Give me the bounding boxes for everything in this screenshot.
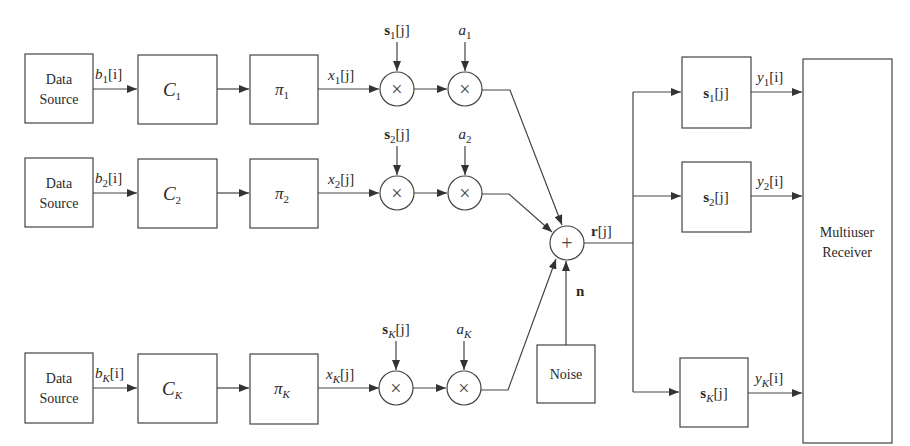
data-source-label-2b: Source bbox=[40, 196, 79, 211]
label-y2: y2[i] bbox=[755, 173, 783, 192]
label-xK: xK[j] bbox=[325, 366, 354, 385]
data-source-box-2 bbox=[25, 158, 93, 227]
label-b2: b2[i] bbox=[95, 170, 122, 189]
multiply-icon-2b: × bbox=[459, 182, 470, 204]
data-source-label-1a: Data bbox=[46, 72, 73, 87]
multiuser-receiver: Multiuser Receiver bbox=[803, 59, 892, 443]
label-yK: yK[i] bbox=[753, 370, 783, 389]
channel: + Noise n r[j] bbox=[537, 92, 681, 403]
multiply-icon-1b: × bbox=[459, 78, 470, 100]
label-x1: x1[j] bbox=[327, 67, 354, 86]
label-noise-n: n bbox=[576, 283, 585, 299]
multiply-icon-1a: × bbox=[391, 78, 402, 100]
label-aK: aK bbox=[457, 321, 473, 340]
user-row-2: Data Source b2[i] C2 π2 x2[j] × s2[j] × … bbox=[25, 126, 552, 232]
plus-icon: + bbox=[561, 232, 572, 254]
label-b1: b1[i] bbox=[95, 66, 122, 85]
multiply-icon-Ka: × bbox=[390, 377, 401, 399]
receiver-label-line2: Receiver bbox=[822, 245, 872, 260]
multiuser-system-diagram: Data Source b1[i] C1 π1 x1[j] × s1[j] × … bbox=[0, 0, 910, 446]
label-bK: bK[i] bbox=[95, 365, 124, 384]
data-source-box-K bbox=[25, 353, 93, 423]
multiply-icon-Kb: × bbox=[458, 377, 469, 399]
data-source-box-1 bbox=[25, 54, 93, 123]
label-s1-in: s1[j] bbox=[384, 22, 410, 41]
label-a1: a1 bbox=[459, 22, 472, 41]
receiver-label-line1: Multiuser bbox=[820, 225, 875, 240]
arrow-user2-to-sum bbox=[482, 194, 552, 232]
noise-box-label: Noise bbox=[550, 367, 583, 382]
user-row-K: Data Source bK[i] CK πK xK[j] × sK[j] × … bbox=[25, 259, 556, 424]
label-x2: x2[j] bbox=[327, 171, 354, 190]
label-a2: a2 bbox=[459, 126, 472, 145]
label-sK-in: sK[j] bbox=[382, 321, 409, 340]
data-source-label-1b: Source bbox=[40, 92, 79, 107]
label-r: r[j] bbox=[591, 223, 612, 239]
data-source-label-Kb: Source bbox=[40, 391, 79, 406]
despreaders: s1[j] y1[i] s2[j] y2[i] sK[j] yK[i] bbox=[680, 57, 802, 427]
label-y1: y1[i] bbox=[755, 69, 783, 88]
label-s2-in: s2[j] bbox=[384, 126, 410, 145]
multiply-icon-2a: × bbox=[391, 182, 402, 204]
data-source-label-2a: Data bbox=[46, 176, 73, 191]
data-source-label-Ka: Data bbox=[46, 371, 73, 386]
